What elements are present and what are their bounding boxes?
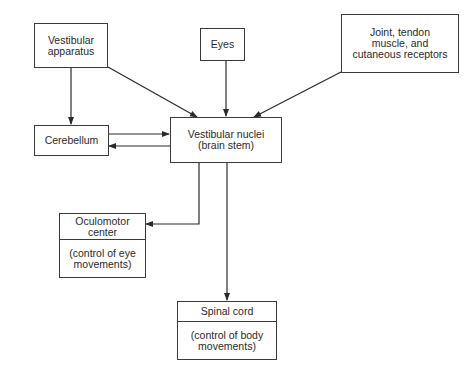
edge-nuclei-to-oculomotor (146, 162, 199, 224)
node-oculomotor-center: Oculomotor center (control of eye moveme… (59, 213, 146, 278)
node-cerebellum: Cerebellum (34, 125, 109, 156)
node-description: movements) (198, 341, 256, 352)
edge-receptors-to-nuclei (254, 72, 341, 117)
node-description: (control of eye (69, 248, 136, 259)
node-label: Eyes (211, 39, 234, 50)
node-description: (control of body (191, 330, 263, 341)
node-title: Spinal cord (201, 306, 254, 317)
edge-vestibular-apparatus-to-nuclei (108, 67, 197, 117)
node-label: Vestibular (48, 35, 94, 46)
node-description: movements) (74, 259, 132, 270)
node-title: Oculomotor (75, 216, 129, 227)
node-vestibular-nuclei: Vestibular nuclei (brain stem) (170, 117, 282, 163)
node-eyes: Eyes (200, 28, 245, 61)
node-spinal-cord: Spinal cord (control of body movements) (177, 301, 277, 360)
node-label: cutaneous receptors (352, 49, 447, 60)
node-label: apparatus (48, 46, 95, 57)
node-receptors: Joint, tendon muscle, and cutaneous rece… (341, 14, 459, 73)
node-label: (brain stem) (198, 140, 254, 151)
node-title: center (88, 227, 117, 238)
node-title-section: Spinal cord (178, 302, 276, 322)
node-label: Cerebellum (45, 135, 99, 146)
node-description-section: (control of body movements) (178, 322, 276, 359)
node-title-section: Oculomotor center (60, 214, 145, 240)
node-vestibular-apparatus: Vestibular apparatus (34, 23, 108, 68)
node-description-section: (control of eye movements) (60, 240, 145, 277)
